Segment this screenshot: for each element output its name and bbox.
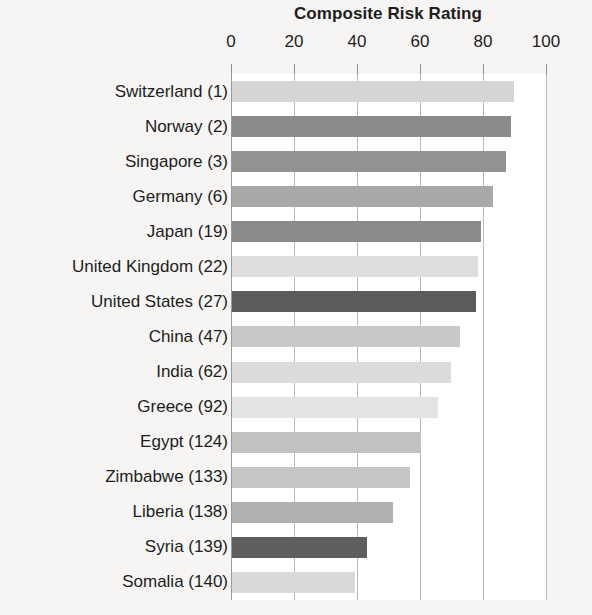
bar-row: Zimbabwe (133)	[0, 460, 592, 495]
x-axis-tick-label: 100	[532, 32, 560, 52]
category-label: Egypt (124)	[8, 432, 228, 452]
x-axis-tick-mark	[483, 64, 484, 74]
category-label: Syria (139)	[8, 537, 228, 557]
bar-row: Japan (19)	[0, 214, 592, 249]
bar-rows: Switzerland (1)Norway (2)Singapore (3)Ge…	[0, 74, 592, 600]
bar	[232, 397, 438, 418]
x-axis-tick-label: 0	[226, 32, 235, 52]
x-axis-tick-label: 20	[285, 32, 304, 52]
bar	[232, 221, 481, 242]
bar-row: Norway (2)	[0, 109, 592, 144]
category-label: United States (27)	[8, 292, 228, 312]
x-axis-tick-mark	[420, 64, 421, 74]
bar	[232, 502, 393, 523]
bar-row: Switzerland (1)	[0, 74, 592, 109]
bar	[232, 151, 506, 172]
category-label: Somalia (140)	[8, 572, 228, 592]
x-axis-tick-label: 80	[474, 32, 493, 52]
bar	[232, 116, 511, 137]
bar-row: Germany (6)	[0, 179, 592, 214]
bar	[232, 432, 421, 453]
bar-row: Egypt (124)	[0, 425, 592, 460]
category-label: Germany (6)	[8, 187, 228, 207]
category-label: China (47)	[8, 327, 228, 347]
x-axis-tick-mark	[546, 64, 547, 74]
bar-row: Greece (92)	[0, 390, 592, 425]
bar-row: Syria (139)	[0, 530, 592, 565]
x-axis-tick-mark	[357, 64, 358, 74]
category-label: Norway (2)	[8, 117, 228, 137]
bar	[232, 291, 476, 312]
bar-row: Somalia (140)	[0, 565, 592, 600]
category-label: Liberia (138)	[8, 502, 228, 522]
category-label: Switzerland (1)	[8, 82, 228, 102]
bar	[232, 81, 514, 102]
category-label: Singapore (3)	[8, 152, 228, 172]
category-label: India (62)	[8, 362, 228, 382]
chart-container: Composite Risk Rating 020406080100 Switz…	[0, 0, 592, 615]
bar	[232, 256, 478, 277]
bar-row: China (47)	[0, 319, 592, 354]
x-axis-tick-label: 40	[348, 32, 367, 52]
category-label: Japan (19)	[8, 222, 228, 242]
x-axis-tick-labels: 020406080100	[0, 32, 592, 56]
category-label: Greece (92)	[8, 397, 228, 417]
x-axis-tick-label: 60	[411, 32, 430, 52]
chart-title: Composite Risk Rating	[230, 4, 546, 24]
x-axis-tick-mark	[231, 64, 232, 74]
category-label: United Kingdom (22)	[8, 257, 228, 277]
bar-row: India (62)	[0, 355, 592, 390]
bar-row: Liberia (138)	[0, 495, 592, 530]
bar	[232, 537, 367, 558]
bar	[232, 572, 355, 593]
bar	[232, 186, 493, 207]
x-axis-tick-mark	[294, 64, 295, 74]
bar	[232, 326, 460, 347]
bar	[232, 467, 410, 488]
category-label: Zimbabwe (133)	[8, 467, 228, 487]
bar-row: United Kingdom (22)	[0, 249, 592, 284]
bar-row: Singapore (3)	[0, 144, 592, 179]
bar	[232, 362, 451, 383]
bar-row: United States (27)	[0, 284, 592, 319]
